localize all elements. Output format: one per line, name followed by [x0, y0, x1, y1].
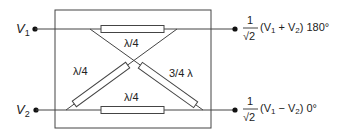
input-v2-label: V2	[16, 102, 30, 119]
bottom-element-label: λ/4	[124, 91, 139, 103]
diagonal-left-label: λ/4	[73, 65, 88, 77]
output-diff-terminal[interactable]	[232, 107, 237, 112]
svg-text:1: 1	[247, 95, 253, 107]
output-sum-expression: 1 √2 (V1 + V2) 180°	[243, 14, 329, 42]
diagonal-right-label: 3/4 λ	[169, 67, 193, 79]
top-element-label: λ/4	[124, 37, 139, 49]
svg-text:(V1 + V2) 180°: (V1 + V2) 180°	[260, 21, 329, 35]
top-quarter-wave-element	[101, 26, 164, 33]
input-v1-label: V1	[16, 21, 30, 38]
bottom-quarter-wave-element	[101, 107, 164, 114]
output-sum-terminal[interactable]	[232, 26, 237, 31]
output-diff-expression: 1 √2 (V1 − V2) 0°	[243, 95, 317, 123]
hybrid-coupler-diagram: V1 V2 λ/4 λ/4 3/4 λ λ/4 1 √2 (V1 + V2) 1…	[0, 0, 342, 136]
svg-text:(V1 − V2) 0°: (V1 − V2) 0°	[260, 102, 317, 116]
svg-text:1: 1	[247, 14, 253, 26]
svg-text:√2: √2	[243, 30, 255, 42]
svg-text:√2: √2	[243, 111, 255, 123]
